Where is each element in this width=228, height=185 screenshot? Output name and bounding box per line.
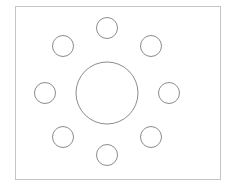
small-circle-top-right: [141, 36, 162, 57]
small-circles-group: [35, 18, 180, 166]
small-circle-bottom-right: [141, 127, 162, 148]
frame-border: [16, 7, 221, 180]
small-circle-left: [35, 83, 56, 104]
diagram-canvas: [0, 0, 228, 185]
small-circle-bottom-left: [53, 127, 74, 148]
center-circle: [76, 62, 138, 124]
small-circle-bottom: [97, 145, 118, 166]
small-circle-top: [97, 18, 118, 39]
small-circle-top-left: [53, 36, 74, 57]
circle-ring-diagram: [0, 0, 228, 185]
small-circle-right: [159, 83, 180, 104]
